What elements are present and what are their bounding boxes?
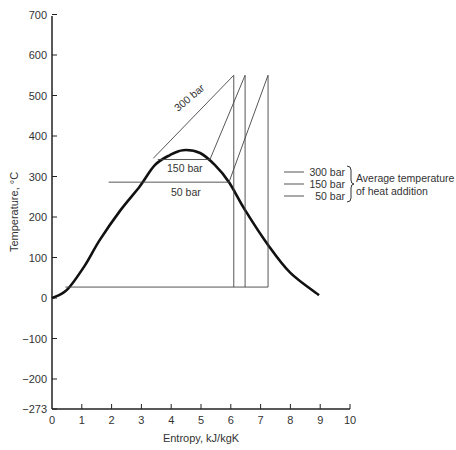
y-tick-label: 500 — [29, 90, 47, 102]
x-axis-title: Entropy, kJ/kgK — [163, 432, 240, 444]
y-tick-label: −100 — [22, 333, 47, 345]
annotation-50-bar: 50 bar — [171, 186, 201, 198]
x-tick-label: 8 — [287, 414, 293, 426]
x-tick-label: 1 — [79, 414, 85, 426]
legend-brace — [347, 166, 354, 202]
legend: 300 bar 150 bar 50 bar Average temperatu… — [284, 166, 455, 202]
axes — [52, 16, 350, 409]
legend-group-label-line2: of heat addition — [356, 185, 428, 197]
legend-label-300: 300 bar — [309, 166, 345, 178]
annotations: 300 bar 150 bar 50 bar — [167, 81, 207, 198]
y-axis-title: Temperature, °C — [8, 172, 20, 252]
x-tick-label: 4 — [168, 414, 174, 426]
y-tick-label: 100 — [29, 252, 47, 264]
y-tick-label: 200 — [29, 211, 47, 223]
y-tick-label: −200 — [22, 373, 47, 385]
y-tick-label: −273 — [22, 403, 47, 415]
x-tick-label: 9 — [317, 414, 323, 426]
x-tick-label: 0 — [49, 414, 55, 426]
legend-label-150: 150 bar — [309, 178, 345, 190]
y-tick-label: 400 — [29, 130, 47, 142]
x-tick-label: 5 — [198, 414, 204, 426]
legend-group-label-line1: Average temperature — [356, 172, 455, 184]
legend-label-50: 50 bar — [315, 190, 345, 202]
x-tick-label: 6 — [228, 414, 234, 426]
annotation-150-bar: 150 bar — [167, 162, 203, 174]
ts-diagram: 7006005004003002001000−100−200−273 01234… — [0, 0, 456, 450]
y-tick-label: 0 — [41, 292, 47, 304]
series-150-bar — [158, 75, 245, 287]
x-tick-label: 10 — [344, 414, 356, 426]
series-300-bar — [153, 75, 233, 287]
x-tick-label: 3 — [138, 414, 144, 426]
series-50-bar — [109, 75, 268, 287]
y-tick-label: 700 — [29, 9, 47, 21]
x-tick-label: 7 — [258, 414, 264, 426]
y-tick-label: 300 — [29, 171, 47, 183]
x-ticks: 012345678910 — [49, 404, 356, 426]
x-tick-label: 2 — [109, 414, 115, 426]
y-tick-label: 600 — [29, 49, 47, 61]
